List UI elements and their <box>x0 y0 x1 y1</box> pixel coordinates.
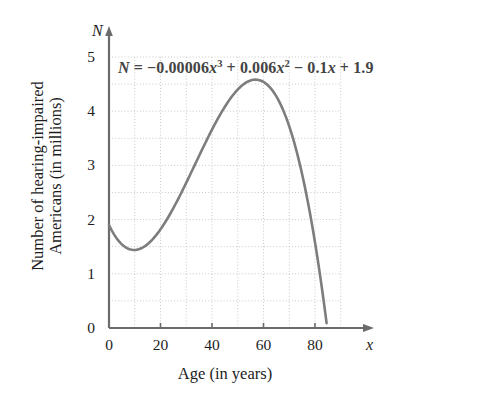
x-tick-label: 40 <box>198 337 226 353</box>
y-tick-label: 3 <box>83 157 99 173</box>
x-axis-arrow-icon <box>363 324 374 332</box>
y-tick-label: 1 <box>83 266 99 282</box>
equation-lhs: N <box>118 59 130 76</box>
equation-term2-coefficient: 0.006 <box>240 59 277 76</box>
equation-term1-variable: x <box>209 59 217 76</box>
equation-annotation: N = −0.00006x3 + 0.006x2 − 0.1x + 1.9 <box>118 58 374 77</box>
data-curve <box>109 80 327 323</box>
y-tick-label: 2 <box>83 212 99 228</box>
x-tick-label: 0 <box>95 337 123 353</box>
equation-term1-coefficient: −0.00006 <box>147 59 209 76</box>
x-axis-title: Age (in years) <box>109 364 341 384</box>
y-axis-variable-name: N <box>92 22 103 40</box>
y-tick-label: 4 <box>83 103 99 119</box>
x-tick-label: 60 <box>250 337 278 353</box>
y-tick-label: 0 <box>83 320 99 336</box>
equation-op3: + <box>340 59 349 76</box>
equation-term2-variable: x <box>276 59 284 76</box>
x-tick-label: 80 <box>301 337 329 353</box>
equation-term2-exponent: 2 <box>285 58 290 69</box>
y-axis-arrow-icon <box>105 26 113 36</box>
equation-constant: 1.9 <box>353 59 373 76</box>
y-tick-label: 5 <box>83 49 99 65</box>
equation-term3-coefficient: 0.1 <box>307 59 327 76</box>
chart-figure: Number of hearing-impaired Americans (in… <box>0 0 491 398</box>
equation-op2: − <box>294 59 303 76</box>
equation-equals: = <box>134 59 143 76</box>
x-tick-label: 20 <box>147 337 175 353</box>
equation-term1-exponent: 3 <box>217 58 222 69</box>
equation-op1: + <box>227 59 236 76</box>
equation-term3-variable: x <box>328 59 336 76</box>
x-axis-variable-name: x <box>366 336 373 354</box>
